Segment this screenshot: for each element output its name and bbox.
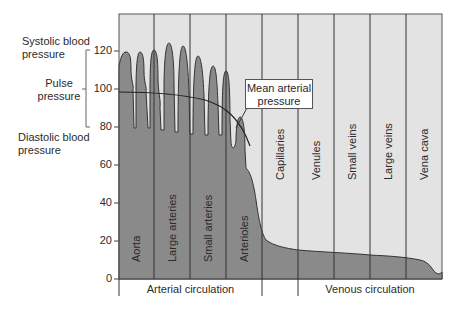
y-tick-80: 80	[88, 120, 112, 132]
arterial-circulation-label: Arterial circulation	[119, 283, 262, 296]
y-tick-100: 100	[88, 82, 112, 94]
venous-circulation-label: Venous circulation	[298, 283, 442, 296]
y-axis-ticks	[114, 51, 119, 279]
segment-label-arterioles: Arterioles	[238, 216, 250, 262]
segment-label-vena-cava: Vena cava	[418, 129, 430, 180]
y-tick-120: 120	[88, 44, 112, 56]
segment-label-capillaries: Capillaries	[274, 129, 286, 180]
y-tick-60: 60	[88, 158, 112, 170]
pulse-pressure-label: Pulse pressure	[34, 77, 84, 103]
segment-label-large-veins: Large veins	[382, 123, 394, 180]
callout-line1: Mean arterial	[246, 82, 312, 95]
systolic-label-line2: pressure	[22, 48, 90, 61]
systolic-label-line1: Systolic blood	[22, 35, 90, 48]
segment-label-large-arteries: Large arteries	[166, 194, 178, 262]
systolic-label: Systolic blood pressure	[22, 35, 90, 61]
segment-label-venules: Venules	[310, 141, 322, 180]
diastolic-label-line2: pressure	[18, 144, 90, 157]
segment-label-small-veins: Small veins	[346, 124, 358, 180]
diastolic-label: Diastolic blood pressure	[18, 131, 90, 157]
y-tick-20: 20	[88, 234, 112, 246]
pulse-label-line2: pressure	[34, 90, 84, 103]
pulse-label-line1: Pulse	[34, 77, 84, 90]
y-tick-40: 40	[88, 196, 112, 208]
segment-label-aorta: Aorta	[130, 236, 142, 262]
callout-line2: pressure	[246, 95, 312, 108]
segment-label-small-arteries: Small arteries	[202, 195, 214, 262]
y-tick-0: 0	[88, 272, 112, 284]
mean-arterial-pressure-callout: Mean arterial pressure	[245, 79, 313, 109]
diastolic-label-line1: Diastolic blood	[18, 131, 90, 144]
